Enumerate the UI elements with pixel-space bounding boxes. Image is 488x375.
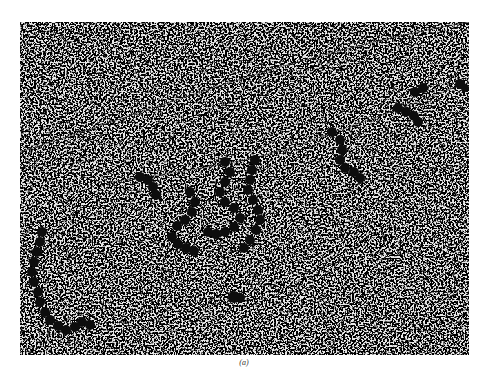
micrograph-svg — [20, 22, 469, 355]
micrograph-image — [20, 22, 469, 355]
figure-caption: (a) — [0, 358, 488, 367]
